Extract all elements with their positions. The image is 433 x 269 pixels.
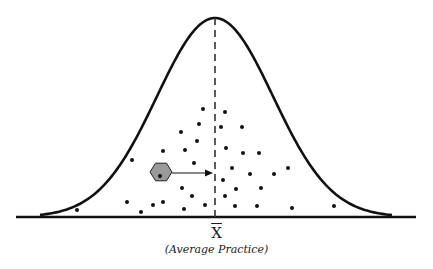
data-point: [332, 204, 336, 208]
data-point: [290, 206, 294, 210]
data-point: [161, 200, 165, 204]
data-point: [190, 194, 194, 198]
data-point: [130, 158, 134, 162]
data-point: [240, 125, 244, 129]
data-point: [180, 186, 184, 190]
data-point: [221, 178, 225, 182]
average-practice-caption: (Average Practice): [0, 243, 433, 256]
data-point: [272, 172, 276, 176]
practice-data-points: [75, 107, 336, 214]
data-point: [257, 151, 261, 155]
data-point: [195, 139, 199, 143]
data-point: [248, 172, 252, 176]
data-point: [223, 110, 227, 114]
data-point: [255, 204, 259, 208]
data-point: [224, 146, 228, 150]
data-point: [125, 200, 129, 204]
data-point: [151, 203, 155, 207]
data-point: [223, 194, 227, 198]
data-point: [233, 204, 237, 208]
data-point: [203, 203, 207, 207]
data-point: [230, 166, 234, 170]
highlighted-practice-dot: [158, 174, 162, 178]
data-point: [286, 166, 290, 170]
data-point: [183, 148, 187, 152]
data-point: [139, 210, 143, 214]
data-point: [75, 208, 79, 212]
highlighted-practice-hexagon: [150, 163, 172, 181]
data-point: [197, 122, 201, 126]
data-point: [201, 107, 205, 111]
data-point: [182, 207, 186, 211]
data-point: [192, 161, 196, 165]
data-point: [161, 149, 165, 153]
normal-distribution-curve: [40, 18, 392, 215]
data-point: [219, 125, 223, 129]
data-point: [179, 130, 183, 134]
mean-symbol-label: X: [0, 224, 433, 242]
data-point: [259, 186, 263, 190]
data-point: [234, 187, 238, 191]
arrowhead-icon: [205, 170, 213, 177]
data-point: [241, 151, 245, 155]
